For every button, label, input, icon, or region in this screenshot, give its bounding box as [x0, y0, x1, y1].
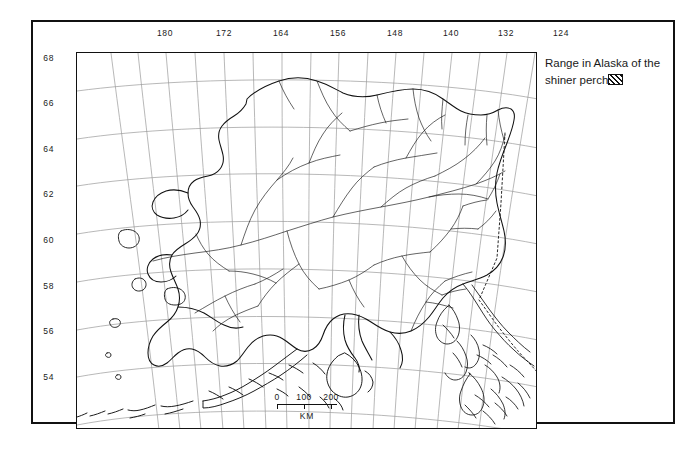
lon-tick-180: 180	[157, 28, 173, 38]
lon-tick-132: 132	[498, 28, 514, 38]
lon-tick-124: 124	[553, 28, 569, 38]
lat-tick-66: 66	[32, 98, 54, 108]
lon-tick-156: 156	[330, 28, 346, 38]
lat-tick-56: 56	[32, 326, 54, 336]
figure-frame: 180 172 164 156 148 140 132 124 68 66 64…	[31, 20, 675, 424]
scale-tick-2	[331, 404, 332, 409]
lat-tick-64: 64	[32, 144, 54, 154]
lon-tick-164: 164	[273, 28, 289, 38]
lon-tick-148: 148	[387, 28, 403, 38]
scale-bar-rule	[271, 404, 343, 410]
map-panel	[76, 52, 537, 429]
legend-text: Range in Alaska of the shiner perch	[545, 56, 687, 86]
lat-tick-54: 54	[32, 372, 54, 382]
rivers	[153, 81, 505, 331]
lon-tick-140: 140	[443, 28, 459, 38]
lat-tick-58: 58	[32, 281, 54, 291]
lon-tick-172: 172	[216, 28, 232, 38]
scale-tick-1	[304, 404, 305, 409]
alaska-canada-border	[479, 133, 537, 373]
scale-value-200: 200	[323, 392, 339, 402]
scale-value-100: 100	[296, 392, 312, 402]
southeast-panhandle	[436, 284, 535, 424]
lat-tick-62: 62	[32, 189, 54, 199]
scale-bar-unit: KM	[271, 411, 343, 421]
legend-line-2: shiner perch	[545, 74, 608, 86]
map-drawing	[77, 53, 537, 429]
scale-bar: 0 100 200 KM	[271, 392, 343, 421]
legend-line-1: Range in Alaska of the	[545, 56, 687, 70]
scale-bar-line	[277, 404, 337, 405]
hatched-range-swatch	[608, 74, 623, 85]
legend: Range in Alaska of the shiner perch	[545, 56, 687, 88]
graticule-meridians	[111, 53, 535, 429]
scale-tick-0	[277, 404, 278, 409]
lat-tick-68: 68	[32, 53, 54, 63]
lat-tick-60: 60	[32, 235, 54, 245]
scale-value-0: 0	[274, 392, 279, 402]
scale-bar-numbers: 0 100 200	[271, 392, 343, 403]
